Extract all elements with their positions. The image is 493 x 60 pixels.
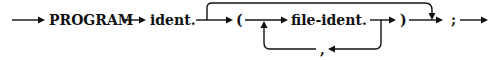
file-ident-node: file-ident. xyxy=(291,12,367,28)
rparen-node: ) xyxy=(400,12,407,28)
program-keyword: PROGRAM xyxy=(49,12,133,28)
lparen-node: ( xyxy=(236,12,243,28)
program-heading-syntax-diagram: PROGRAM ident. ( file-ident. ) , ; xyxy=(0,0,493,60)
arrow-ident-lparen xyxy=(196,17,233,24)
end-arrow xyxy=(460,17,488,24)
ident-node: ident. xyxy=(150,12,196,28)
arrow-fileident-rparen xyxy=(370,17,396,24)
loop-comma-arrowhead xyxy=(328,46,335,53)
loop-left-path xyxy=(264,28,316,49)
start-arrow xyxy=(12,17,45,24)
arrow-lparen-fileident xyxy=(245,17,288,24)
semicolon-node: ; xyxy=(451,12,456,28)
loop-up-arrowhead xyxy=(261,21,268,28)
comma-node: , xyxy=(320,41,325,57)
arrow-rparen-semicolon xyxy=(409,17,443,24)
bypass-arrowhead xyxy=(429,13,436,20)
